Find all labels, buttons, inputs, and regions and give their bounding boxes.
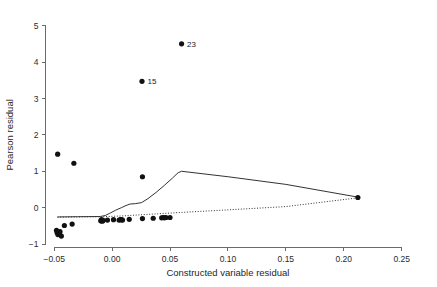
data-point bbox=[120, 217, 125, 222]
data-point bbox=[59, 233, 64, 238]
data-point bbox=[55, 152, 60, 157]
x-axis-tick-label: 0.25 bbox=[393, 254, 410, 264]
reference-dotted-curve bbox=[57, 198, 357, 217]
data-point bbox=[355, 195, 360, 200]
axes-layer: −1012345−0.050.000.050.100.150.200.25 bbox=[29, 21, 410, 264]
curves-layer bbox=[57, 171, 357, 217]
data-point bbox=[151, 216, 156, 221]
y-axis-tick-label: 1 bbox=[34, 166, 39, 176]
y-axis-tick-label: 2 bbox=[34, 130, 39, 140]
y-axis-title: Pearson residual bbox=[5, 99, 16, 170]
y-axis-tick-label: 3 bbox=[34, 94, 39, 104]
data-point-outlier bbox=[179, 41, 184, 46]
x-axis-tick-label: −0.05 bbox=[43, 254, 65, 264]
y-axis-tick-label: 4 bbox=[34, 57, 39, 67]
point-label: 23 bbox=[187, 40, 196, 49]
data-point bbox=[70, 221, 75, 226]
x-axis-title: Constructed variable residual bbox=[166, 267, 289, 278]
data-point bbox=[167, 215, 172, 220]
y-axis-tick-label: 5 bbox=[34, 21, 39, 31]
scatter-plot: −1012345−0.050.000.050.100.150.200.25 23… bbox=[0, 0, 437, 287]
point-labels-layer: 2315 bbox=[147, 40, 196, 86]
data-point bbox=[140, 216, 145, 221]
chart-page: −1012345−0.050.000.050.100.150.200.25 23… bbox=[0, 0, 437, 287]
x-axis-tick-label: 0.15 bbox=[278, 254, 295, 264]
x-axis-tick-label: 0.10 bbox=[220, 254, 237, 264]
data-point-outlier bbox=[139, 79, 144, 84]
data-point bbox=[71, 161, 76, 166]
x-axis-tick-label: 0.00 bbox=[104, 254, 121, 264]
y-axis-tick-label: 0 bbox=[34, 203, 39, 213]
data-point bbox=[127, 217, 132, 222]
data-point bbox=[105, 217, 110, 222]
data-points-layer bbox=[54, 41, 361, 238]
axis-titles-layer: Constructed variable residualPearson res… bbox=[5, 99, 290, 277]
data-point bbox=[111, 217, 116, 222]
data-point bbox=[140, 174, 145, 179]
data-point bbox=[100, 218, 105, 223]
point-label: 15 bbox=[147, 77, 156, 86]
lowess-smooth-curve bbox=[57, 171, 357, 217]
x-axis-tick-label: 0.05 bbox=[162, 254, 179, 264]
y-axis-tick-label: −1 bbox=[29, 239, 39, 249]
data-point bbox=[62, 223, 67, 228]
x-axis-tick-label: 0.20 bbox=[335, 254, 352, 264]
